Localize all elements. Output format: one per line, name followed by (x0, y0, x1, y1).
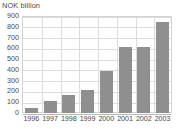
x-slot: 1997 (41, 114, 60, 128)
x-axis: 19961997199819992000200120022003 (22, 114, 172, 128)
y-tick-label: 400 (7, 66, 19, 73)
bar-slot (116, 16, 135, 113)
bar-1998[interactable] (62, 95, 75, 113)
chart-title: NOK billion (2, 1, 40, 10)
bar-2003[interactable] (156, 22, 169, 113)
y-axis: 0100200300400500600700800900 (0, 16, 20, 113)
x-slot: 2003 (153, 114, 172, 128)
bar-slot (78, 16, 97, 113)
bar-slot (41, 16, 60, 113)
y-tick-label: 800 (7, 23, 19, 30)
y-tick-label: 500 (7, 56, 19, 63)
bar-slot (153, 16, 172, 113)
bar-slot (22, 16, 41, 113)
x-tick-label: 1999 (78, 114, 97, 124)
bar-slot (60, 16, 79, 113)
y-tick-label: 300 (7, 77, 19, 84)
x-slot: 1999 (78, 114, 97, 128)
y-tick-label: 700 (7, 34, 19, 41)
x-tick-label: 2003 (153, 114, 172, 124)
x-slot: 2002 (135, 114, 154, 128)
bar-slot (97, 16, 116, 113)
x-tick-label: 1996 (22, 114, 41, 124)
y-tick-label: 0 (15, 109, 19, 116)
x-slot: 2000 (97, 114, 116, 128)
bar-2002[interactable] (137, 47, 150, 113)
bar-2000[interactable] (100, 71, 113, 113)
bar-slot (135, 16, 154, 113)
bar-1997[interactable] (44, 101, 57, 113)
x-tick-label: 2000 (97, 114, 116, 124)
bars-layer (22, 16, 172, 113)
x-tick-label: 2001 (116, 114, 135, 124)
bar-1996[interactable] (25, 108, 38, 113)
x-slot: 1998 (60, 114, 79, 128)
x-slot: 2001 (116, 114, 135, 128)
x-slot: 1996 (22, 114, 41, 128)
bar-chart: NOK billion 0100200300400500600700800900… (0, 0, 176, 129)
x-tick-label: 1997 (41, 114, 60, 124)
y-tick-label: 100 (7, 99, 19, 106)
x-tick-label: 2002 (135, 114, 154, 124)
x-tick-label: 1998 (60, 114, 79, 124)
bar-2001[interactable] (119, 47, 132, 113)
y-tick-label: 600 (7, 45, 19, 52)
y-tick-label: 200 (7, 88, 19, 95)
y-tick-label: 900 (7, 12, 19, 19)
bar-1999[interactable] (81, 90, 94, 113)
